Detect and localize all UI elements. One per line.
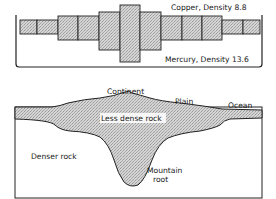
copper-block-9 — [182, 16, 202, 40]
crust-cross-section — [15, 91, 262, 198]
continent-label: Continent — [107, 87, 144, 96]
copper-label: Copper, Density 8.8 — [171, 3, 247, 12]
less-dense-rock-region — [15, 91, 262, 186]
denser-rock-label: Denser rock — [31, 152, 77, 161]
copper-block-2 — [37, 20, 58, 34]
copper-block-5 — [99, 12, 120, 50]
copper-block-1 — [20, 20, 37, 34]
plain-label: Plain — [175, 97, 193, 106]
ocean-label: Ocean — [228, 101, 252, 110]
copper-block-12 — [243, 20, 260, 34]
mercury-label: Mercury, Density 13.6 — [165, 55, 249, 64]
copper-block-7 — [140, 12, 161, 50]
mountain-root-label-1: Mountain — [147, 166, 183, 175]
mountain-root-label-2: root — [153, 175, 168, 184]
copper-block-10 — [202, 16, 222, 40]
copper-block-8 — [161, 16, 182, 40]
copper-blocks — [20, 5, 260, 62]
copper-block-3 — [58, 16, 78, 40]
copper-block-11 — [222, 20, 243, 34]
copper-block-6 — [120, 5, 140, 62]
less-dense-rock-label: Less dense rock — [101, 114, 162, 123]
isostasy-diagram: Copper, Density 8.8 Mercury, Density 13.… — [0, 0, 276, 199]
copper-block-4 — [78, 16, 99, 40]
